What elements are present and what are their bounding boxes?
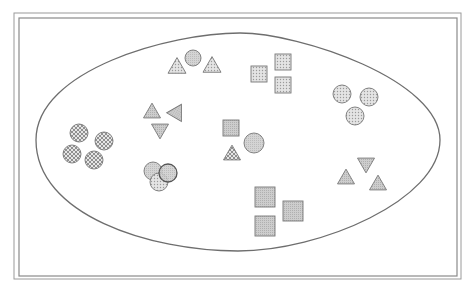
triangle-shape <box>168 58 186 74</box>
square-shape <box>255 216 275 236</box>
circle-shape <box>85 151 103 169</box>
square-shape <box>223 120 239 136</box>
circle-shape <box>244 133 264 153</box>
square-shape <box>275 77 291 93</box>
cluster-top-squares <box>251 54 291 93</box>
cluster-right-circles <box>333 85 378 125</box>
cluster-right-triangles <box>338 158 387 190</box>
circle-shape <box>159 164 177 182</box>
square-shape <box>283 201 303 221</box>
inner-frame <box>19 18 457 276</box>
cluster-center-mixed <box>223 120 264 160</box>
cluster-top-triangles-circle <box>168 50 221 73</box>
triangle-shape <box>358 158 375 173</box>
square-shape <box>255 187 275 207</box>
triangle-shape <box>167 100 189 121</box>
circle-shape <box>63 145 81 163</box>
triangle-shape <box>203 57 221 73</box>
square-shape <box>275 54 291 70</box>
outer-frame <box>14 13 461 279</box>
triangle-shape <box>370 175 387 190</box>
triangle-shape <box>338 169 355 184</box>
circle-shape <box>333 85 351 103</box>
circle-shape <box>360 88 378 106</box>
shape-clusters <box>63 50 387 236</box>
circle-shape <box>95 132 113 150</box>
circle-shape <box>70 124 88 142</box>
cluster-overlapping-circles <box>144 162 177 191</box>
triangle-shape <box>144 103 161 118</box>
diagram-canvas <box>0 0 471 291</box>
triangle-shape <box>224 145 241 160</box>
circle-shape <box>185 50 201 66</box>
cluster-left-crosshatch-circles <box>63 124 113 169</box>
square-shape <box>251 66 267 82</box>
cluster-rotated-triangles <box>144 100 189 139</box>
circle-shape <box>346 107 364 125</box>
triangle-shape <box>152 124 169 139</box>
cluster-bottom-squares <box>255 187 303 236</box>
